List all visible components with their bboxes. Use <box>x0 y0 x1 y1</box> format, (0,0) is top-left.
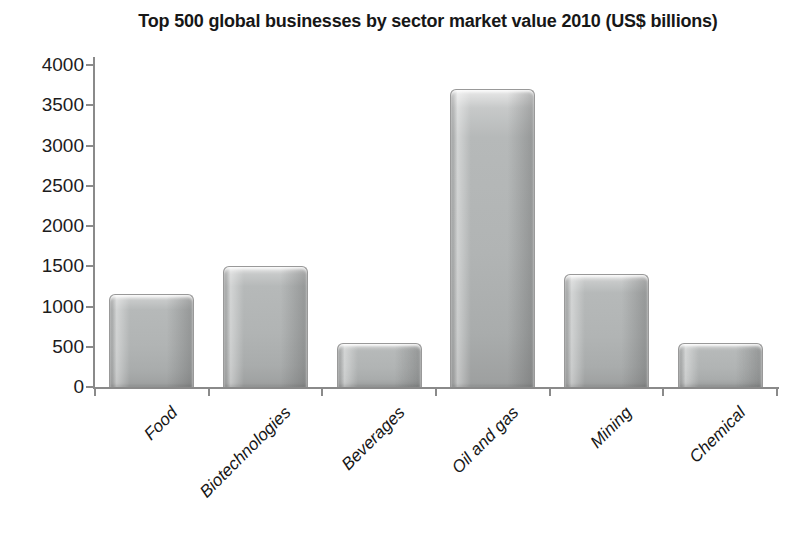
x-category-label-chemical: Chemical <box>686 403 750 467</box>
x-category-label-mining: Mining <box>587 403 637 453</box>
x-category-label-beverages: Beverages <box>338 403 410 475</box>
x-category-label-biotechnologies: Biotechnologies <box>197 403 296 502</box>
x-category-label-oil-and-gas: Oil and gas <box>448 403 523 478</box>
x-category-labels: FoodBiotechnologiesBeveragesOil and gasM… <box>0 0 812 535</box>
x-category-label-food: Food <box>140 403 182 445</box>
bar-chart: Top 500 global businesses by sector mark… <box>0 0 812 535</box>
